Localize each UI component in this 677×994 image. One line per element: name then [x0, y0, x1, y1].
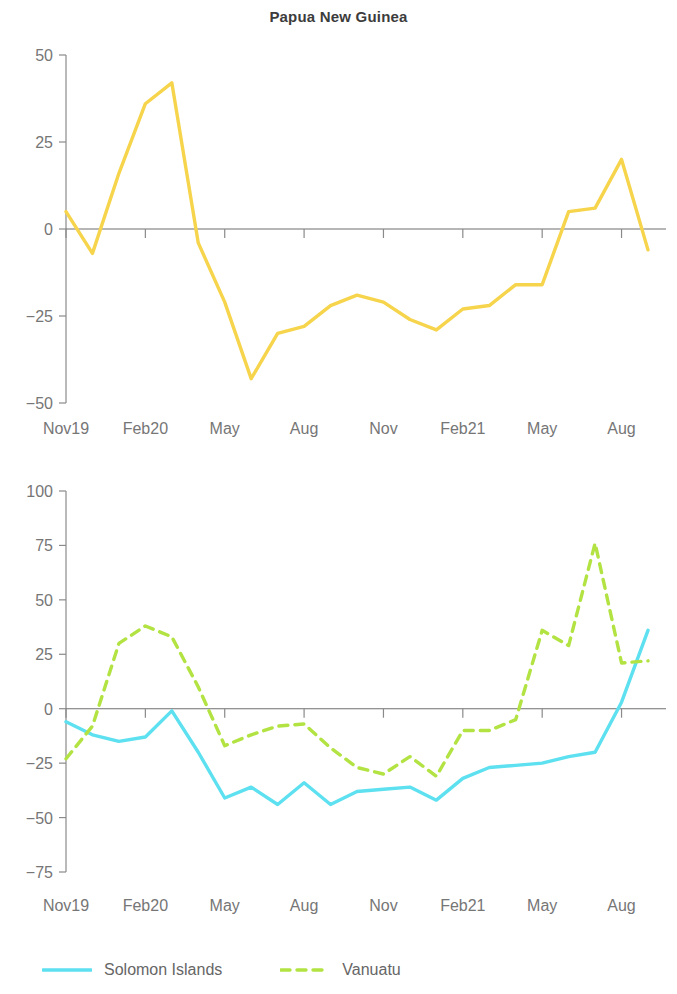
svg-text:−75: −75 — [26, 864, 53, 881]
svg-text:Nov: Nov — [369, 897, 397, 914]
svg-text:Nov19: Nov19 — [43, 420, 89, 437]
svg-text:100: 100 — [26, 483, 53, 500]
svg-text:Nov: Nov — [369, 420, 397, 437]
svg-text:May: May — [527, 420, 557, 437]
series-line-vanuatu — [66, 543, 648, 776]
svg-text:25: 25 — [35, 134, 53, 151]
svg-text:Feb20: Feb20 — [123, 897, 168, 914]
legend-label: Vanuatu — [342, 961, 400, 979]
series-line-solomon-islands — [66, 630, 648, 804]
svg-text:75: 75 — [35, 537, 53, 554]
legend-swatch-icon — [42, 963, 92, 977]
chart-page: Papua New Guinea 50250−25−50Nov19Feb20Ma… — [0, 0, 677, 994]
svg-text:Aug: Aug — [290, 897, 318, 914]
svg-text:May: May — [210, 420, 240, 437]
line-chart-papua-new-guinea: 50250−25−50Nov19Feb20MayAugNovFeb21MayAu… — [0, 36, 677, 446]
svg-text:−25: −25 — [26, 755, 53, 772]
svg-text:May: May — [210, 897, 240, 914]
page-title: Papua New Guinea — [0, 8, 677, 25]
legend-swatch-icon — [280, 963, 330, 977]
legend-label: Solomon Islands — [104, 961, 222, 979]
svg-text:0: 0 — [44, 221, 53, 238]
series-line-papua-new-guinea — [66, 83, 648, 379]
svg-text:Feb21: Feb21 — [440, 420, 485, 437]
chart-panel-bottom: 1007550250−25−50−75Nov19Feb20MayAugNovFe… — [0, 470, 677, 920]
svg-text:Feb20: Feb20 — [123, 420, 168, 437]
svg-text:−50: −50 — [26, 810, 53, 827]
svg-text:0: 0 — [44, 701, 53, 718]
legend-item-vanuatu[interactable]: Vanuatu — [280, 961, 400, 979]
svg-text:May: May — [527, 897, 557, 914]
svg-text:Nov19: Nov19 — [43, 897, 89, 914]
svg-text:25: 25 — [35, 646, 53, 663]
svg-text:Aug: Aug — [607, 420, 635, 437]
svg-text:−50: −50 — [26, 395, 53, 412]
svg-text:50: 50 — [35, 47, 53, 64]
legend-row: Solomon IslandsVanuatu — [0, 950, 677, 990]
svg-text:−25: −25 — [26, 308, 53, 325]
svg-text:Aug: Aug — [290, 420, 318, 437]
legend-item-solomon-islands[interactable]: Solomon Islands — [42, 961, 222, 979]
svg-text:Aug: Aug — [607, 897, 635, 914]
chart-panel-top: 50250−25−50Nov19Feb20MayAugNovFeb21MayAu… — [0, 36, 677, 446]
svg-text:Feb21: Feb21 — [440, 897, 485, 914]
chart-legend: Solomon IslandsVanuatu — [0, 950, 677, 990]
line-chart-solomon-vanuatu: 1007550250−25−50−75Nov19Feb20MayAugNovFe… — [0, 470, 677, 920]
svg-text:50: 50 — [35, 592, 53, 609]
